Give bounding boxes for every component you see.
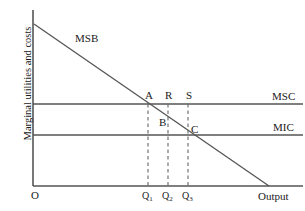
origin-label: O <box>31 190 39 201</box>
x-tick-q2-sub: 2 <box>169 195 173 203</box>
x-tick-q1-sub: 1 <box>149 195 153 203</box>
x-tick-q2: Q2 <box>162 191 173 201</box>
mic-curve-label: MIC <box>273 122 294 133</box>
point-label-c: C <box>191 124 198 135</box>
x-axis-label: Output <box>258 191 289 202</box>
msb-line <box>34 24 269 186</box>
point-label-s: S <box>186 90 192 101</box>
diagram-canvas <box>0 0 305 211</box>
point-label-r: R <box>165 90 172 101</box>
x-tick-q3-sub: 3 <box>189 195 193 203</box>
point-label-a: A <box>145 90 153 101</box>
y-axis-label: Marginal utilities and costs <box>22 9 33 159</box>
x-tick-q3: Q3 <box>182 191 193 201</box>
x-tick-q1: Q1 <box>142 191 153 201</box>
msc-curve-label: MSC <box>272 91 295 102</box>
economics-diagram: Marginal utilities and costs MSB MSC MIC… <box>0 0 305 211</box>
point-label-b: B <box>159 117 166 128</box>
msb-curve-label: MSB <box>75 33 98 44</box>
